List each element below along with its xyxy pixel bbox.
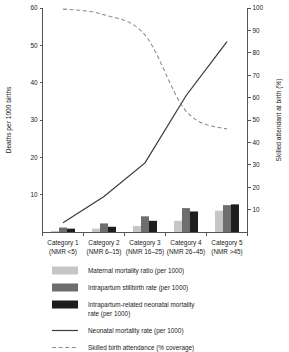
- right-tick-label: 100: [253, 4, 264, 11]
- left-tick-label: 20: [30, 154, 38, 161]
- chart-container: 102030405060 102030405060708090100 Death…: [0, 0, 289, 352]
- category-label: Category 3: [129, 239, 161, 247]
- left-tick-label: 30: [30, 116, 38, 123]
- legend-label: Skilled birth attendance (% coverage): [88, 344, 194, 352]
- category-labels-group: Category 1(NMR <5)Category 2(NMR 6–15)Ca…: [47, 239, 243, 256]
- legend: Maternal mortality ratio (per 1000)Intra…: [52, 267, 195, 352]
- legend-swatch: [52, 284, 78, 292]
- neonatal-mortality-line: [63, 42, 227, 223]
- right-tick-label: 40: [253, 139, 261, 146]
- category-sublabel: (NMR <5): [49, 248, 77, 256]
- left-tick-label: 60: [30, 4, 38, 11]
- category-label: Category 4: [170, 239, 202, 247]
- bars-group: [51, 204, 239, 232]
- bar: [100, 223, 108, 232]
- category-sublabel: (NMR >45): [211, 248, 242, 256]
- right-tick-label: 60: [253, 94, 261, 101]
- right-tick-label: 70: [253, 72, 261, 79]
- category-sublabel: (NMR 26–45): [167, 248, 205, 256]
- bar: [190, 211, 198, 232]
- right-axis-ticks: 102030405060708090100: [248, 4, 264, 213]
- bar: [92, 229, 100, 232]
- bar: [133, 226, 141, 232]
- right-tick-label: 90: [253, 27, 261, 34]
- chart-svg: 102030405060 102030405060708090100 Death…: [0, 0, 289, 352]
- legend-label-line2: rate (per 1000): [88, 310, 130, 318]
- bar: [67, 229, 75, 232]
- left-axis-title: Deaths per 1000 births: [5, 86, 13, 153]
- right-tick-label: 80: [253, 49, 261, 56]
- right-tick-label: 10: [253, 206, 261, 213]
- category-sublabel: (NMR 6–15): [87, 248, 122, 256]
- legend-label: Neonatal mortality rate (per 1000): [88, 327, 184, 335]
- skilled-birth-attendance-line: [63, 9, 227, 129]
- legend-label: Maternal mortality ratio (per 1000): [88, 267, 184, 275]
- legend-swatch: [52, 267, 78, 275]
- left-tick-label: 10: [30, 191, 38, 198]
- axes-group: [43, 8, 248, 233]
- category-label: Category 1: [47, 239, 79, 247]
- bar: [182, 208, 190, 232]
- legend-swatch: [52, 301, 78, 309]
- bar: [108, 227, 116, 232]
- left-axis-ticks: 102030405060: [30, 4, 42, 198]
- bar: [141, 216, 149, 232]
- bar: [59, 228, 67, 232]
- category-label: Category 2: [88, 239, 120, 247]
- category-label: Category 5: [211, 239, 243, 247]
- bar: [51, 231, 59, 232]
- right-tick-label: 20: [253, 184, 261, 191]
- legend-label: Intrapartum-related neonatal mortality: [88, 301, 195, 309]
- category-sublabel: (NMR 16–25): [126, 248, 164, 256]
- bar: [215, 211, 223, 232]
- left-tick-label: 50: [30, 42, 38, 49]
- right-axis-title: Skilled attendant at birth (%): [275, 79, 283, 162]
- left-tick-label: 40: [30, 79, 38, 86]
- bar: [231, 204, 239, 232]
- right-tick-label: 30: [253, 161, 261, 168]
- bar: [174, 221, 182, 232]
- bar: [223, 205, 231, 232]
- bar: [149, 221, 157, 232]
- legend-label: Intrapartum stillbirth rate (per 1000): [88, 284, 188, 292]
- right-tick-label: 50: [253, 116, 261, 123]
